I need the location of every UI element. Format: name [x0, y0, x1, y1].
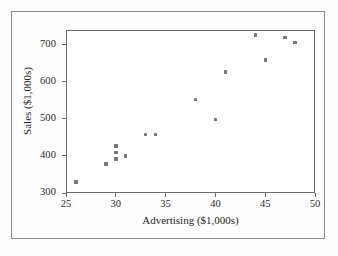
- y-axis-tick-mark: [62, 155, 66, 156]
- y-axis-tick-label: 300: [22, 186, 56, 197]
- scatter-plot-figure: Advertising ($1,000s) Sales ($1,000s) 30…: [0, 0, 338, 256]
- y-axis-tick-mark: [62, 44, 66, 45]
- data-point: [114, 144, 117, 147]
- x-axis-tick-mark: [66, 193, 67, 197]
- data-point: [74, 180, 77, 183]
- x-axis-tick-label: 50: [300, 198, 330, 209]
- data-point: [254, 33, 257, 36]
- y-axis-tick-label: 400: [22, 149, 56, 160]
- x-axis-tick-label: 45: [250, 198, 280, 209]
- data-point: [214, 118, 217, 121]
- data-point: [283, 36, 286, 39]
- x-axis-label: Advertising ($1,000s): [66, 214, 315, 226]
- x-axis-tick-label: 30: [101, 198, 131, 209]
- y-axis-tick-mark: [62, 118, 66, 119]
- data-point: [144, 133, 147, 136]
- data-point: [154, 133, 157, 136]
- data-point: [104, 162, 107, 165]
- x-axis-tick-label: 35: [151, 198, 181, 209]
- data-point: [293, 41, 296, 44]
- x-axis-tick-label: 25: [51, 198, 81, 209]
- plot-data-area: [66, 30, 315, 193]
- y-axis-tick-label: 700: [22, 38, 56, 49]
- y-axis-tick-label: 600: [22, 75, 56, 86]
- x-axis-tick-mark: [265, 193, 266, 197]
- data-point: [194, 98, 197, 101]
- data-point: [264, 58, 267, 61]
- x-axis-tick-mark: [115, 193, 116, 197]
- data-point: [114, 157, 117, 160]
- data-point: [224, 70, 227, 73]
- y-axis-tick-label: 500: [22, 112, 56, 123]
- x-axis-tick-label: 40: [200, 198, 230, 209]
- x-axis-tick-mark: [215, 193, 216, 197]
- x-axis-tick-mark: [315, 193, 316, 197]
- data-point: [114, 151, 117, 154]
- data-point: [124, 154, 127, 157]
- y-axis-tick-mark: [62, 81, 66, 82]
- x-axis-tick-mark: [165, 193, 166, 197]
